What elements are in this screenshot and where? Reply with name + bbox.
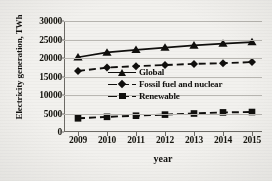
y-axis-tick-mark (60, 132, 64, 133)
gridline (64, 21, 262, 22)
x-axis-tick-label: 2013 (185, 135, 203, 145)
x-axis-tick-label: 2011 (127, 135, 145, 145)
data-point-marker (220, 109, 227, 116)
y-axis-tick-labels: 050001000015000200002500030000 (18, 0, 64, 181)
legend-marker (118, 80, 126, 88)
y-axis-tick-mark (60, 95, 64, 96)
y-axis-tick-label: 30000 (39, 16, 62, 26)
legend-swatch (108, 67, 136, 78)
legend-label: Global (139, 67, 164, 77)
series-renewable (75, 109, 256, 122)
y-axis-tick-mark (60, 58, 64, 59)
legend-swatch (108, 91, 136, 102)
legend-label: Renewable (139, 91, 180, 101)
y-axis-tick-label: 25000 (39, 35, 62, 45)
legend-item: Fossil fuel and nuclear (108, 78, 260, 90)
y-axis-tick-label: 20000 (39, 53, 62, 63)
legend-item: Global (108, 66, 260, 78)
data-point-marker (75, 115, 82, 122)
x-axis-tick-label: 2012 (156, 135, 174, 145)
y-axis-tick-mark (60, 39, 64, 40)
line-chart: Electricity generation, TWh 050001000015… (0, 0, 272, 181)
legend-item: Renewable (108, 90, 260, 102)
chart-legend: GlobalFossil fuel and nuclearRenewable (108, 66, 260, 102)
y-axis-tick-label: 10000 (39, 90, 62, 100)
x-axis-title: year (64, 153, 262, 164)
y-axis-tick-mark (60, 113, 64, 114)
legend-marker (119, 93, 126, 100)
gridline (64, 40, 262, 41)
gridline (64, 58, 262, 59)
x-axis-tick-label: 2009 (69, 135, 87, 145)
y-axis-tick-label: 15000 (39, 72, 62, 82)
data-point-marker (74, 67, 82, 75)
legend-label: Fossil fuel and nuclear (139, 79, 222, 89)
data-point-marker (104, 114, 111, 121)
data-point-marker (248, 58, 256, 66)
legend-marker (118, 69, 126, 76)
y-axis-tick-mark (60, 21, 64, 22)
gridline (64, 114, 262, 115)
x-axis-tick-label: 2015 (243, 135, 261, 145)
x-axis-tick-labels: 2009201020112012201320142015 (64, 135, 262, 149)
legend-swatch (108, 79, 136, 90)
x-axis-tick-label: 2014 (214, 135, 232, 145)
y-axis-tick-mark (60, 76, 64, 77)
data-point-marker (162, 111, 169, 118)
x-axis-tick-label: 2010 (98, 135, 116, 145)
